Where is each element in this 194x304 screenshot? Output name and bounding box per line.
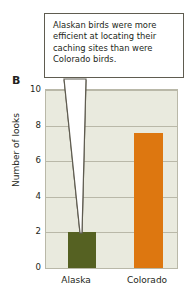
callout-box: Alaskan birds were more efficient at loc…	[44, 13, 184, 78]
y-axis-title: Number of looks	[11, 80, 21, 220]
y-axis-ticks: 10 8 6 4 2 0	[18, 89, 41, 269]
y-tick-label: 0	[21, 262, 41, 272]
y-tick-label: 8	[21, 120, 41, 130]
bar-colorado	[134, 133, 163, 268]
figure-panel-b: B Alaskan birds were more efficient at l…	[0, 0, 194, 304]
y-tick-label: 6	[21, 155, 41, 165]
plot-area	[45, 89, 178, 269]
x-tick-label-colorado: Colorado	[112, 275, 182, 285]
x-tick-label-alaska: Alaska	[45, 275, 107, 285]
gridline	[46, 90, 177, 91]
callout-text: Alaskan birds were more efficient at loc…	[53, 20, 179, 66]
y-tick-label: 2	[21, 226, 41, 236]
y-tick-label: 10	[21, 84, 41, 94]
bar-alaska	[68, 232, 96, 268]
y-tick-label: 4	[21, 191, 41, 201]
gridline	[46, 126, 177, 127]
